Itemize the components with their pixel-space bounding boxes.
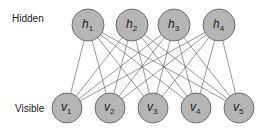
hidden-layer-label: Hidden [12,13,44,24]
node-v5: v5 [224,93,254,123]
node-v1: v1 [52,93,82,123]
rbm-diagram: h1h2h3h4v1v2v3v4v5 Hidden Visible [0,0,269,128]
node-h2: h2 [116,9,148,41]
node-v4: v4 [181,93,211,123]
node-v2: v2 [95,93,125,123]
node-h4: h4 [203,9,235,41]
node-h1: h1 [72,9,104,41]
node-v3: v3 [138,93,168,123]
node-h3: h3 [158,9,190,41]
visible-layer-label: Visible [15,103,45,114]
nodes: h1h2h3h4v1v2v3v4v5 [52,9,254,123]
